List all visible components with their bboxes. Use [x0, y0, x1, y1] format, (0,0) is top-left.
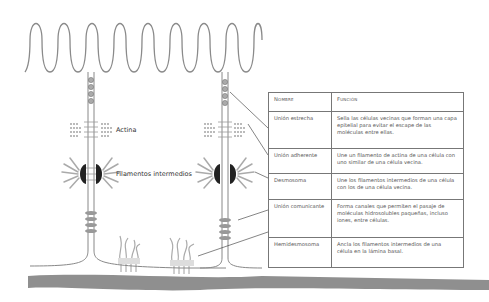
actin-label: Actina [116, 126, 136, 134]
row-function: Sella las células vecinas que forman una… [332, 112, 464, 149]
desmosome-left [62, 158, 120, 188]
header-name: Nombre [269, 93, 332, 112]
row-name: Desmosoma [269, 174, 332, 200]
tight-junction-left [88, 77, 93, 103]
hemidesmosome-2 [170, 238, 194, 274]
row-function: Ancla los filamentos intermedios de una … [332, 238, 464, 268]
table-row: Unión estrecha Sella las células vecinas… [269, 112, 464, 149]
microvilli-membrane [25, 24, 262, 73]
row-name: Hemidesmosoma [269, 238, 332, 268]
actin-right [204, 122, 244, 137]
header-function: Función [332, 93, 464, 112]
row-name: Unión comunicante [269, 200, 332, 238]
row-function: Forma canales que permiten el pasaje de … [332, 200, 464, 238]
basal-lamina [28, 275, 489, 291]
intermediate-filaments-label: Filamentos intermedios [116, 170, 192, 178]
row-name: Unión adherente [269, 149, 332, 174]
actin-left [70, 122, 111, 137]
junctions-table: Nombre Función Unión estrecha Sella las … [268, 92, 464, 268]
desmosome-right [196, 158, 254, 188]
table-header-row: Nombre Función [269, 93, 464, 112]
row-name: Unión estrecha [269, 112, 332, 149]
row-function: Une un filamento de actina de una célula… [332, 149, 464, 174]
tight-junction-right [222, 79, 227, 105]
table-row: Hemidesmosoma Ancla los filamentos inter… [269, 238, 464, 268]
gap-junction-left [85, 211, 97, 233]
row-function: Une los filamentos intermedios de una cé… [332, 174, 464, 200]
gap-junction-right [219, 218, 231, 240]
table-row: Unión adherente Une un filamento de acti… [269, 149, 464, 174]
table-row: Unión comunicante Forma canales que perm… [269, 200, 464, 238]
table-row: Desmosoma Une los filamentos intermedios… [269, 174, 464, 200]
